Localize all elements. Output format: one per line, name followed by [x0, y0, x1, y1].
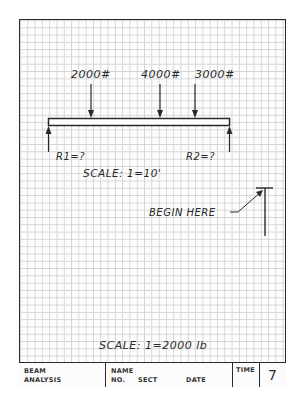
title-block: BEAM ANALYSIS NAME NO. SECT DATE TIME 7 [19, 362, 286, 387]
title-cell: BEAM ANALYSIS [19, 363, 106, 387]
load-label-4000: 4000# [141, 68, 181, 81]
date-label: DATE [186, 376, 206, 384]
name-label: NAME [111, 367, 134, 375]
sheet-number: 7 [268, 367, 277, 383]
reaction-arrow-r2 [227, 126, 233, 152]
load-label-3000: 3000# [195, 68, 235, 81]
sect-label: SECT [138, 376, 158, 384]
title-line1: BEAM [24, 367, 46, 375]
time-cell: TIME [233, 363, 260, 387]
reaction-label-r1: R1=? [56, 151, 85, 162]
reaction-label-r2: R2=? [186, 151, 215, 162]
force-scale-label: SCALE: 1=2000 lb [99, 339, 207, 352]
load-arrow-2000 [88, 84, 94, 118]
begin-here-label: BEGIN HERE [149, 207, 216, 218]
beam [49, 119, 230, 126]
no-label: NO. [111, 376, 125, 384]
load-label-2000: 2000# [71, 68, 111, 81]
load-arrow-4000 [157, 84, 163, 118]
begin-here-marker [230, 188, 273, 236]
name-cell: NAME NO. SECT DATE [106, 363, 233, 387]
title-line2: ANALYSIS [24, 376, 62, 384]
time-label: TIME [236, 366, 255, 374]
load-arrow-3000 [192, 84, 198, 118]
sheet-number-cell: 7 [260, 363, 286, 387]
reaction-arrow-r1 [46, 126, 52, 152]
length-scale-label: SCALE: 1=10' [83, 167, 161, 179]
